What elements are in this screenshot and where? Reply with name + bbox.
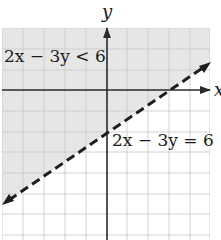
inequality-graph: y x 2x − 3y < 6 2x − 3y = 6 bbox=[0, 0, 221, 240]
inequality-label: 2x − 3y < 6 bbox=[4, 46, 106, 66]
y-axis-label: y bbox=[101, 1, 113, 22]
equation-label: 2x − 3y = 6 bbox=[112, 130, 214, 150]
x-axis-label: x bbox=[214, 79, 221, 100]
